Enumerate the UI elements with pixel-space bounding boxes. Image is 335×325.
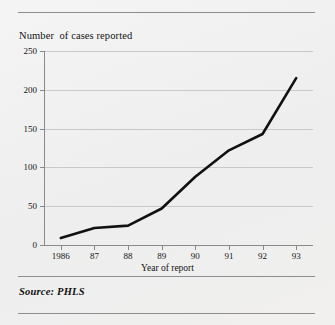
x-axis-title: Year of report xyxy=(0,263,335,273)
mid-divider-rule xyxy=(18,276,315,277)
data-line xyxy=(61,78,296,238)
source-note: Source: PHLS xyxy=(19,286,85,297)
figure-panel: Number of cases reported 050100150200250… xyxy=(0,0,335,325)
bottom-divider-rule xyxy=(18,313,315,314)
